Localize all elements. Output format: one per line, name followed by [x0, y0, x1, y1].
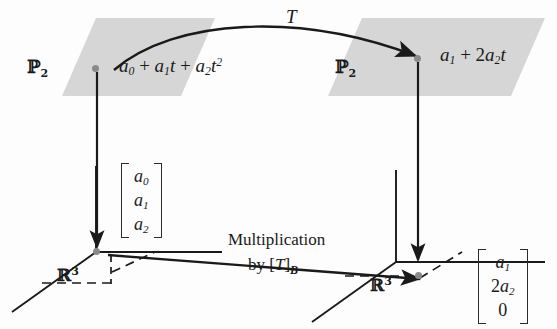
codomain-point-dot [414, 55, 421, 62]
left-vector-row-0: a0 [134, 165, 149, 189]
transformation-label: T [286, 7, 297, 26]
bracket-left-close [154, 163, 162, 238]
left-plane-label: ℙ2 [27, 58, 48, 79]
domain-polynomial-label: a0 + a1t + a2t2 [119, 56, 222, 78]
plus-1: + [134, 55, 154, 76]
right-vector-row-0: a1 [496, 251, 511, 275]
right-coordinate-dot [415, 272, 422, 279]
bracket-left-open [121, 163, 129, 238]
bracket-right-close [520, 249, 528, 324]
bracket-prefix: by [ [248, 255, 275, 274]
commutative-diagram-figure: ℙ2 ℙ2 T a0 + a1t + a2t2 a1 + 2a2t ℝ3 ℝ3 … [0, 0, 557, 329]
left-vector-rows: a0 a1 a2 [129, 163, 154, 238]
codomain-polynomial-label: a1 + 2a2t [440, 45, 506, 67]
right-plane-label: ℙ2 [335, 58, 356, 79]
plus-sign: + [455, 44, 475, 65]
coefficient-2: 2 [476, 44, 486, 65]
left-vector-row-2: a2 [134, 213, 149, 237]
bracket-right-open [478, 249, 486, 324]
term-a1: a1 [440, 44, 455, 65]
plus-2: + [175, 55, 195, 76]
right-coordinate-vector: a1 2a2 0 [478, 249, 528, 324]
left-coordinate-vector: a0 a1 a2 [121, 163, 162, 238]
multiplication-label-line1: Multiplication [228, 231, 325, 248]
domain-point-dot [92, 65, 99, 72]
left-vector-row-1: a1 [134, 189, 149, 213]
term-a1t: a1t [155, 55, 176, 76]
left-r3-label: ℝ3 [57, 266, 79, 284]
right-vector-rows: a1 2a2 0 [486, 249, 520, 324]
multiplication-label-line2: by [T]B [248, 256, 298, 276]
matrix-operator-T: T [275, 255, 284, 274]
right-plane-shape [328, 18, 545, 96]
basis-subscript: B [290, 263, 298, 277]
right-vector-row-2: 0 [498, 299, 507, 323]
right-dash-depth [420, 252, 462, 278]
term-a0: a0 [119, 55, 134, 76]
term-a2t2: a2t2 [196, 55, 223, 76]
right-r3-label: ℝ3 [370, 276, 392, 294]
term-a2t: a2t [485, 44, 506, 65]
right-vector-row-1: 2a2 [491, 275, 515, 299]
left-coordinate-dot [93, 248, 100, 255]
left-axis-depth [12, 252, 96, 312]
